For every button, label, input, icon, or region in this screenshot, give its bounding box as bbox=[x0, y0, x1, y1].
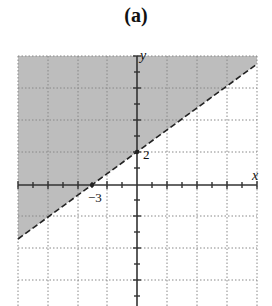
y-intercept-label: 2 bbox=[143, 147, 150, 162]
x-intercept-point bbox=[90, 183, 94, 187]
y-intercept-point bbox=[135, 150, 139, 154]
y-axis-label: y bbox=[138, 48, 147, 63]
inequality-graph: y x 2 −3 bbox=[0, 0, 272, 306]
x-axis-label: x bbox=[251, 168, 259, 183]
x-intercept-label: −3 bbox=[88, 190, 102, 205]
